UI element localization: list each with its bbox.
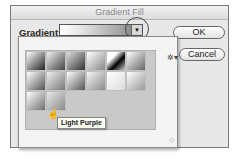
gear-icon[interactable]: ✲▾ — [167, 53, 178, 62]
resize-handle-icon[interactable]: ◇ — [169, 136, 174, 144]
gradient-preset-picker: ✲▾ — [18, 36, 178, 148]
gradient-swatch[interactable] — [126, 51, 146, 71]
gradient-swatch[interactable] — [46, 71, 66, 91]
gradient-swatch[interactable] — [86, 71, 106, 91]
gradient-swatch[interactable] — [126, 71, 146, 91]
gradient-swatch[interactable] — [26, 51, 46, 71]
gradient-swatch[interactable] — [26, 71, 46, 91]
cancel-button[interactable]: Cancel — [179, 48, 225, 61]
gradient-swatch[interactable] — [106, 51, 126, 71]
gradient-swatch[interactable] — [66, 71, 86, 91]
ok-button[interactable]: OK — [173, 26, 225, 39]
swatch-tooltip: Light Purple — [57, 117, 106, 129]
gradient-swatch[interactable] — [26, 91, 46, 111]
gradient-swatch[interactable] — [46, 51, 66, 71]
gradient-swatch[interactable] — [66, 51, 86, 71]
gradient-swatch[interactable] — [106, 71, 126, 91]
dialog-title: Gradient Fill — [11, 6, 228, 20]
gradient-swatch[interactable] — [86, 51, 106, 71]
